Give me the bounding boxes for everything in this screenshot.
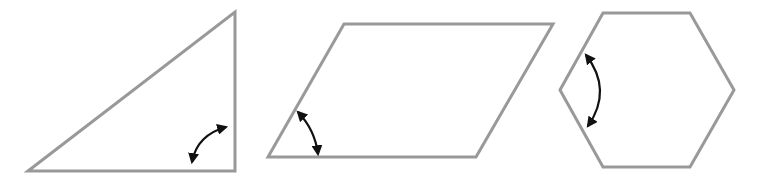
hexagon-outline (560, 13, 734, 167)
parallelogram-outline (268, 24, 553, 157)
diagram-canvas (0, 0, 763, 178)
right-triangle-shape (28, 12, 235, 171)
right-triangle-outline (28, 12, 235, 171)
angle-arrow-icon (298, 112, 318, 154)
angle-arrow-icon (586, 55, 600, 126)
angle-arrow-icon (192, 127, 226, 162)
parallelogram-shape (268, 24, 553, 157)
hexagon-shape (560, 13, 734, 167)
